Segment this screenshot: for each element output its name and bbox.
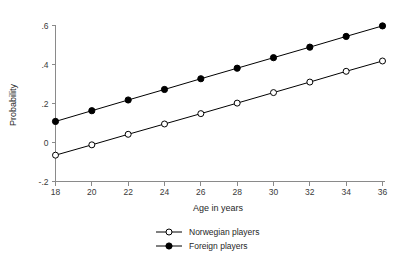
legend-sample-marker <box>166 229 172 235</box>
data-point-marker <box>343 33 349 39</box>
x-tick-label: 28 <box>232 187 242 197</box>
y-axis-title: Probability <box>8 83 18 126</box>
data-point-marker <box>234 100 240 106</box>
chart-background <box>0 0 401 258</box>
data-point-marker <box>307 44 313 50</box>
x-tick-label: 18 <box>51 187 61 197</box>
data-point-marker <box>198 76 204 82</box>
data-point-marker <box>52 118 58 124</box>
data-point-marker <box>307 79 313 85</box>
x-tick-label: 22 <box>123 187 133 197</box>
data-point-marker <box>89 108 95 114</box>
data-point-marker <box>53 152 59 158</box>
y-tick-label: 0 <box>44 138 49 148</box>
x-tick-label: 34 <box>341 187 351 197</box>
data-point-marker <box>379 23 385 29</box>
y-tick-label: -.2 <box>39 177 49 187</box>
x-tick-label: 36 <box>378 187 388 197</box>
data-point-marker <box>343 68 349 74</box>
x-tick-label: 20 <box>87 187 97 197</box>
data-point-marker <box>162 121 168 127</box>
data-point-marker <box>198 111 204 117</box>
y-tick-label: .2 <box>41 99 48 109</box>
data-point-marker <box>380 58 386 64</box>
data-point-marker <box>125 131 131 137</box>
y-tick-label: .6 <box>41 21 48 31</box>
legend-item-label: Foreign players <box>189 241 248 251</box>
y-tick-label: .4 <box>41 60 48 70</box>
x-axis-title: Age in years <box>193 203 244 213</box>
probability-by-age-line-chart: -.20.2.4.6 18202224262830323436 Probabil… <box>0 0 401 258</box>
legend-item-label: Norwegian players <box>189 227 259 237</box>
x-tick-label: 30 <box>269 187 279 197</box>
data-point-marker <box>161 86 167 92</box>
data-point-marker <box>234 65 240 71</box>
data-point-marker <box>270 55 276 61</box>
data-point-marker <box>89 142 95 148</box>
x-tick-label: 26 <box>196 187 206 197</box>
legend-sample-marker <box>166 243 172 249</box>
x-tick-label: 32 <box>305 187 315 197</box>
data-point-marker <box>125 97 131 103</box>
chart-figure: -.20.2.4.6 18202224262830323436 Probabil… <box>0 0 401 258</box>
data-point-marker <box>271 90 277 96</box>
x-tick-label: 24 <box>160 187 170 197</box>
